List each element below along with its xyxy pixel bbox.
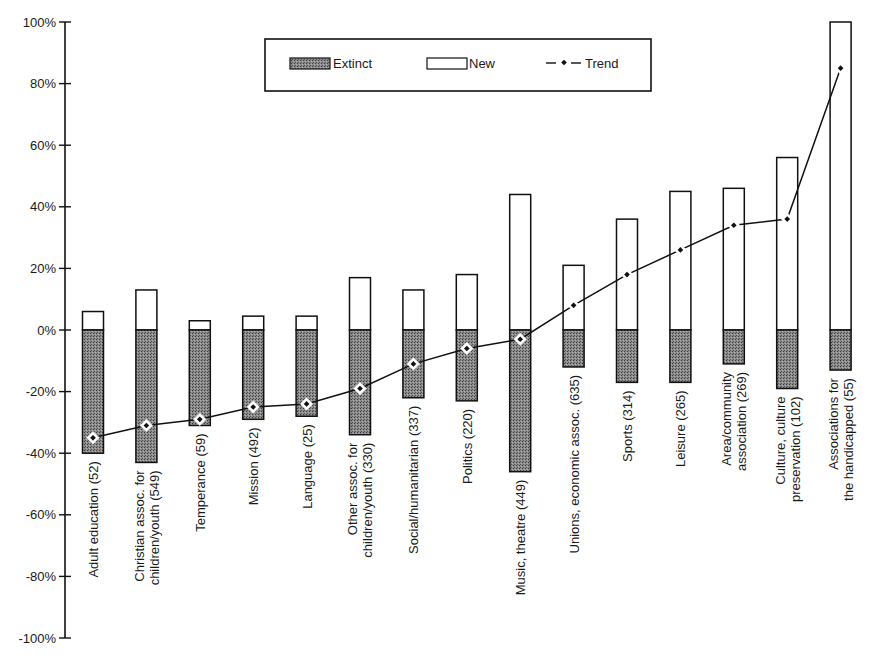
legend-new-label: New: [469, 56, 496, 71]
x-axis-label: association (269): [734, 372, 749, 471]
x-axis-label: Social/humanitarian (337): [406, 406, 421, 554]
x-axis-label: Associations for: [826, 377, 841, 469]
bar-extinct: [189, 330, 210, 425]
bar-extinct: [777, 330, 798, 389]
legend: Extinct New Trend: [265, 39, 651, 91]
bar-extinct: [136, 330, 157, 462]
bar-new: [189, 321, 210, 330]
y-tick-label: 60%: [30, 138, 56, 153]
x-axis-label: preservation (102): [788, 397, 803, 503]
y-tick-label: 40%: [30, 199, 56, 214]
bar-new: [136, 290, 157, 330]
x-axis-label: Language (25): [300, 424, 315, 509]
bar-new: [83, 312, 104, 330]
x-axis-label: Christian assoc. for: [132, 470, 147, 582]
bar-new: [243, 316, 264, 330]
bar-new: [510, 194, 531, 330]
bar-extinct: [563, 330, 584, 367]
bar-new: [296, 316, 317, 330]
bar-group: [189, 321, 210, 426]
bar-group: [403, 290, 424, 398]
bar-extinct: [723, 330, 744, 364]
y-tick-label: -100%: [18, 631, 56, 646]
bar-new: [350, 278, 371, 330]
y-tick-label: -20%: [26, 384, 57, 399]
x-axis-label: Area/community: [719, 371, 734, 465]
bar-extinct: [617, 330, 638, 382]
legend-extinct-swatch: [290, 58, 330, 69]
bar-extinct: [830, 330, 851, 370]
y-tick-label: 100%: [23, 15, 57, 30]
x-axis-label: Adult education (52): [86, 461, 101, 577]
x-axis-label: the handicapped (55): [841, 378, 856, 501]
x-axis-label: Unions, economic assoc. (635): [567, 375, 582, 553]
legend-extinct-label: Extinct: [333, 56, 372, 71]
bar-group: [723, 188, 744, 364]
bar-new: [777, 158, 798, 330]
y-tick-label: 20%: [30, 261, 56, 276]
x-axis-label: Politics (220): [460, 409, 475, 484]
x-axis-label: children/youth (549): [147, 470, 162, 585]
y-tick-label: -80%: [26, 569, 57, 584]
bar-new: [670, 191, 691, 330]
bar-new: [723, 188, 744, 330]
bar-group: [456, 275, 477, 401]
x-axis-label: Music, theatre (449): [513, 480, 528, 596]
y-tick-label: 80%: [30, 76, 56, 91]
x-axis-label: Mission (492): [246, 427, 261, 505]
legend-trend-label: Trend: [585, 56, 618, 71]
bar-new: [456, 275, 477, 330]
legend-new-swatch: [427, 58, 467, 69]
bar-new: [403, 290, 424, 330]
x-axis-label: Culture, culture: [773, 397, 788, 485]
bar-new: [563, 265, 584, 330]
bar-extinct: [510, 330, 531, 472]
y-tick-label: -60%: [26, 507, 57, 522]
bar-group: [617, 219, 638, 382]
y-axis: 100%80%60%40%20%0%-20%-40%-60%-80%-100%: [18, 15, 71, 646]
bar-chart: 100%80%60%40%20%0%-20%-40%-60%-80%-100% …: [0, 0, 874, 661]
bar-group: [350, 278, 371, 435]
y-tick-label: -40%: [26, 446, 57, 461]
x-axis-label: Leisure (265): [673, 390, 688, 467]
bar-group: [777, 158, 798, 389]
bar-extinct: [456, 330, 477, 401]
bar-group: [563, 265, 584, 367]
y-tick-label: 0%: [37, 323, 56, 338]
x-axis-label: children/youth (330): [361, 443, 376, 558]
bar-group: [136, 290, 157, 462]
bar-group: [670, 191, 691, 382]
x-axis-label: Sports (314): [620, 390, 635, 462]
x-axis-label: Other assoc. for: [346, 442, 361, 535]
x-axis-label: Temperance (59): [193, 433, 208, 531]
bar-extinct: [670, 330, 691, 382]
